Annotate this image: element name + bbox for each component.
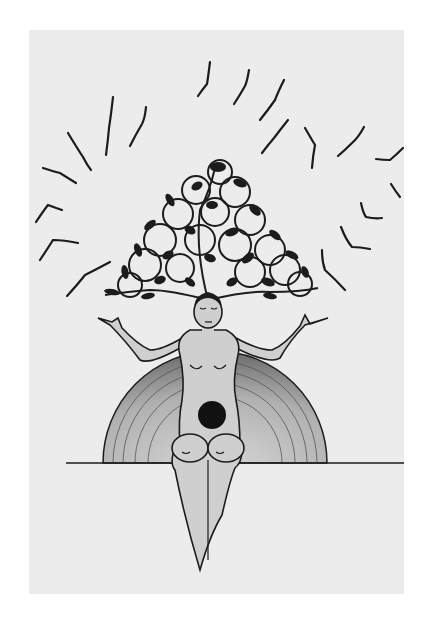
artwork-canvas <box>0 0 444 634</box>
belly-moon-symbol <box>198 401 226 429</box>
